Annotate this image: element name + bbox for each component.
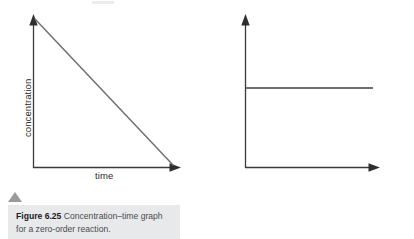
figure-6-25-caption: Figure 6.25 Concentration–time graph for… bbox=[8, 205, 180, 239]
x-axis-label-time: time bbox=[95, 170, 113, 181]
figure-6-25-panel: concentration time Figure 6.25 Concentra… bbox=[0, 0, 207, 239]
concentration-time-chart: concentration time bbox=[0, 0, 207, 200]
rate-concentration-chart: rate concentration bbox=[207, 0, 414, 200]
triangle-up-icon bbox=[8, 192, 22, 202]
y-axis-arrow-icon bbox=[241, 14, 249, 26]
figure-6-26-panel: rate concentration Figure 6.26 Rate–conc… bbox=[207, 0, 414, 239]
data-line-concentration bbox=[35, 19, 173, 165]
rate-concentration-chart-svg bbox=[207, 0, 414, 200]
y-axis-label-concentration: concentration bbox=[22, 79, 33, 137]
x-axis-arrow-icon bbox=[170, 163, 182, 171]
figure-pair-page: concentration time Figure 6.25 Concentra… bbox=[0, 0, 414, 239]
figure-6-25-caption-label: Figure 6.25 bbox=[16, 211, 61, 221]
x-axis-arrow-icon bbox=[369, 163, 381, 171]
